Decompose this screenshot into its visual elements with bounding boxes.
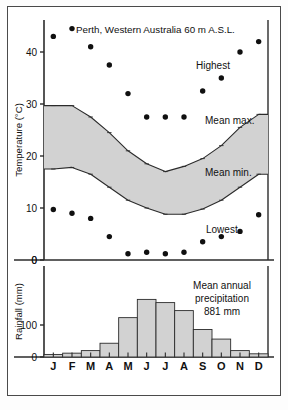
month-label: J xyxy=(162,360,168,372)
highest-temperature-dot xyxy=(163,114,168,119)
climate-chart-figure: 403020100Temperature (°C)Perth, Western … xyxy=(0,0,288,410)
highest-temperature-dot xyxy=(237,49,242,54)
lowest-temperature-dot xyxy=(163,251,168,256)
month-label: S xyxy=(199,360,206,372)
temperature-axis-title: Temperature (°C) xyxy=(13,103,24,177)
highest-temperature-dot xyxy=(144,114,149,119)
highest-temperature-dot xyxy=(69,26,74,31)
temperature-tick-label: 30 xyxy=(26,99,38,110)
lowest-temperature-dot xyxy=(144,250,149,255)
lowest-temperature-dot xyxy=(237,229,242,234)
lowest-temperature-dot xyxy=(107,234,112,239)
rainfall-tick-label: 0 xyxy=(31,352,37,363)
chart-canvas: 403020100Temperature (°C)Perth, Western … xyxy=(0,0,288,410)
month-label: J xyxy=(144,360,150,372)
highest-temperature-dot xyxy=(51,34,56,39)
month-label: J xyxy=(50,360,56,372)
rainfall-axis-title: Rainfall (mm) xyxy=(13,283,24,340)
lowest-temperature-dot xyxy=(125,251,130,256)
highest-temperature-dot xyxy=(181,114,186,119)
chart-title: Perth, Western Australia 60 m A.S.L. xyxy=(76,24,235,35)
rainfall-bar xyxy=(137,299,156,357)
rainfall-bar xyxy=(175,311,194,357)
month-label: M xyxy=(123,360,132,372)
highest-temperature-dot xyxy=(256,39,261,44)
precipitation-annotation-line: precipitation xyxy=(195,293,249,304)
highest-temperature-dot xyxy=(88,44,93,49)
highest-temperature-dot xyxy=(107,62,112,67)
month-label: A xyxy=(105,360,113,372)
month-label: M xyxy=(86,360,95,372)
lowest-temperature-dot xyxy=(51,207,56,212)
rainfall-bar xyxy=(119,318,138,357)
month-label: O xyxy=(217,360,226,372)
highest-temperature-dot xyxy=(200,88,205,93)
lowest-temperature-dot xyxy=(88,216,93,221)
temperature-tick-label: 20 xyxy=(26,151,38,162)
temperature-tick-label: 40 xyxy=(26,47,38,58)
lowest-temperature-dot xyxy=(69,211,74,216)
month-label: D xyxy=(255,360,263,372)
precipitation-annotation-line: 881 mm xyxy=(204,306,240,317)
lowest-label: Lowest xyxy=(206,224,238,235)
highest-temperature-dot xyxy=(125,91,130,96)
precipitation-annotation-line: Mean annual xyxy=(193,280,251,291)
lowest-temperature-dot xyxy=(256,212,261,217)
rainfall-bar xyxy=(156,303,175,357)
highest-temperature-dot xyxy=(219,75,224,80)
mean-min-label: Mean min. xyxy=(205,167,252,178)
month-label: F xyxy=(69,360,76,372)
rainfall-top-zero-label: 0 xyxy=(31,255,37,266)
highest-label: Highest xyxy=(196,60,230,71)
lowest-temperature-dot xyxy=(200,239,205,244)
lowest-temperature-dot xyxy=(181,250,186,255)
temperature-tick-label: 10 xyxy=(26,203,38,214)
mean-max-label: Mean max. xyxy=(205,115,254,126)
month-label: A xyxy=(180,360,188,372)
month-label: N xyxy=(236,360,244,372)
